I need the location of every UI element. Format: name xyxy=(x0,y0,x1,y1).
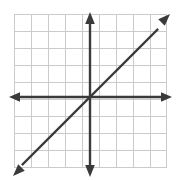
coordinate-plane-svg xyxy=(0,0,176,181)
figure-background xyxy=(0,0,176,181)
graph-figure xyxy=(0,0,176,181)
